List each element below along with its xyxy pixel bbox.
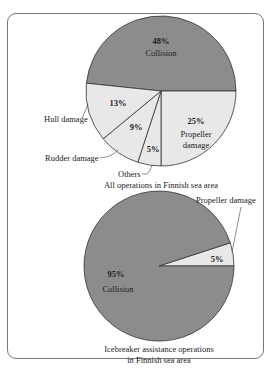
label-collision-pct-2: 95% (108, 269, 125, 279)
label-rudder-pct: 9% (130, 122, 143, 132)
caption-all-operations: All operations in Finnish sea area (104, 180, 218, 190)
leader-propeller-2 (232, 207, 241, 252)
label-propeller-1: Propeller (180, 129, 211, 139)
label-propeller-damage-2: Propeller damage (196, 195, 256, 205)
caption-icebreaker-2: in Finnish sea area (127, 355, 191, 365)
label-others: Others (118, 169, 141, 179)
caption-icebreaker-1: Icebreaker assistance operations (104, 344, 214, 354)
label-hull-damage: Hull damage (44, 114, 88, 124)
label-propeller-2: damage (183, 140, 210, 150)
slice-collision-2 (84, 191, 234, 341)
label-others-pct: 5% (147, 144, 160, 154)
label-collision-pct: 48% (153, 36, 170, 46)
pie-chart-all-operations: 48% Collision 25% Propeller damage 13% 9… (44, 16, 236, 190)
label-propeller-pct: 25% (188, 116, 205, 126)
label-propeller-pct-2: 5% (211, 254, 224, 264)
leader-others (142, 165, 152, 174)
pie-chart-icebreaker: 5% Propeller damage 95% Collision Icebre… (84, 191, 256, 365)
label-rudder-damage: Rudder damage (45, 153, 99, 163)
pie-charts: 48% Collision 25% Propeller damage 13% 9… (0, 0, 275, 373)
label-collision: Collision (145, 48, 177, 58)
label-collision-2: Collision (102, 284, 134, 294)
leader-rudder (100, 150, 118, 158)
label-hull-pct: 13% (110, 98, 127, 108)
